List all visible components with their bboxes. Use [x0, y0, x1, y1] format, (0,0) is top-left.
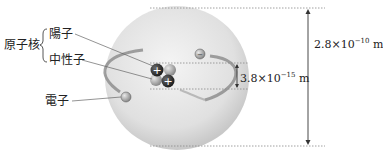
- proton-label: 陽子: [49, 28, 73, 40]
- nucleus-size-label: 3.8×10−15 m: [240, 72, 309, 84]
- atom-size-label: 2.8×10−10 m: [314, 38, 383, 50]
- atom-size-arrowhead-bottom-icon: [306, 140, 311, 145]
- electron-upper-sign-icon: −: [197, 51, 203, 59]
- nucleus-brace-icon: [40, 29, 47, 62]
- atom-size-mantissa: 2.8×10: [314, 38, 355, 51]
- atom-size-exponent: −10: [355, 37, 370, 45]
- proton-1-plus-icon: +: [152, 64, 161, 77]
- nucleus-label: 原子核: [4, 39, 40, 51]
- atom-size-unit: m: [370, 38, 383, 51]
- atom-sphere: [105, 6, 249, 150]
- nucleus-size-mantissa: 3.8×10: [240, 72, 281, 85]
- atom-size-arrowhead-top-icon: [306, 9, 311, 14]
- electron-lower: [121, 92, 131, 102]
- electron-label: 電子: [45, 95, 69, 107]
- nucleus-size-exponent: −15: [281, 71, 296, 79]
- nucleus-size-unit: m: [296, 72, 310, 85]
- proton-2-plus-icon: +: [163, 75, 172, 88]
- neutron-label: 中性子: [49, 54, 85, 66]
